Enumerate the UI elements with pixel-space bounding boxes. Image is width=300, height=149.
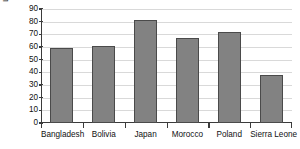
x-axis-category-label: Bolivia — [83, 129, 125, 140]
x-axis-tick-mark — [167, 123, 168, 128]
bar — [218, 32, 241, 123]
x-axis-category-label: Morocco — [167, 129, 209, 140]
bar — [260, 75, 283, 123]
bar — [92, 46, 115, 123]
x-axis-category-label: Poland — [208, 129, 250, 140]
x-axis-tick-mark — [41, 123, 42, 128]
x-axis-category-label: Japan — [125, 129, 167, 140]
bar — [134, 20, 157, 123]
x-axis-tick-mark — [250, 123, 251, 128]
x-axis-tick-marks — [41, 123, 292, 128]
x-axis-tick-mark — [125, 123, 126, 128]
bars-layer — [41, 9, 292, 123]
x-axis-category-labels: BangladeshBoliviaJapanMoroccoPolandSierr… — [41, 129, 292, 145]
bar — [50, 48, 73, 123]
x-axis-category-label: Bangladesh — [41, 129, 83, 140]
bar-chart: Life expectancy (in years) 0102030405060… — [0, 0, 300, 149]
x-axis-tick-mark — [291, 123, 292, 128]
bar — [176, 38, 199, 123]
x-axis-tick-mark — [208, 123, 209, 128]
x-axis-tick-mark — [83, 123, 84, 128]
y-axis-title: Life expectancy (in years) — [0, 0, 12, 20]
x-axis-category-label: Sierra Leone — [250, 129, 292, 140]
